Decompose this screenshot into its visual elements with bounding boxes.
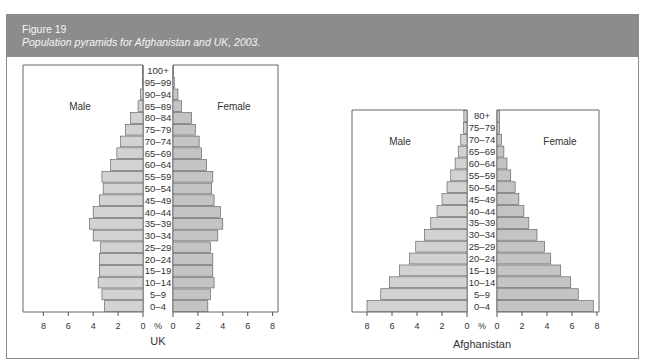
- uk-female-tick-label: 2: [195, 321, 200, 331]
- uk-age-label: 75–79: [145, 124, 171, 135]
- uk-female-tick-label: 4: [220, 321, 225, 331]
- uk-pyramid: Male Female UK % 100+95–9990–9485–8980–8…: [23, 65, 278, 347]
- uk-age-label: 15–19: [145, 265, 171, 276]
- uk-male-tick-label: 8: [41, 321, 46, 331]
- uk-female-bar: [173, 148, 202, 159]
- uk-female-bar: [173, 101, 182, 112]
- afghanistan-male-tick-label: 8: [364, 321, 369, 331]
- afghanistan-age-label: 30–34: [469, 229, 495, 240]
- uk-male-bar: [131, 113, 143, 124]
- afghanistan-age-label: 70–74: [469, 134, 495, 145]
- afghanistan-female-bar: [497, 229, 537, 240]
- afghanistan-female-bar: [497, 170, 511, 181]
- uk-male-bar: [102, 289, 143, 300]
- afghanistan-male-bar: [367, 301, 467, 312]
- uk-age-label: 35–39: [145, 218, 171, 229]
- afghanistan-male-bar: [463, 122, 467, 133]
- afghanistan-female-bar: [497, 301, 593, 312]
- uk-male-bar: [99, 195, 143, 206]
- afghanistan-age-label: 40–44: [469, 206, 495, 217]
- uk-female-bar: [173, 289, 210, 300]
- uk-percent-label: %: [154, 321, 162, 331]
- uk-male-bar: [117, 148, 143, 159]
- uk-female-tick-label: 0: [170, 321, 175, 331]
- afghanistan-age-label: 65–69: [469, 146, 495, 157]
- afghanistan-female-bar: [497, 277, 571, 288]
- uk-age-label: 0–4: [150, 301, 166, 312]
- uk-male-bar: [98, 277, 143, 288]
- afghanistan-female-bar: [497, 122, 500, 133]
- afghanistan-male-bar: [416, 241, 467, 252]
- afghanistan-male-bar: [425, 229, 468, 240]
- afghanistan-male-bar: [455, 158, 467, 169]
- afghanistan-pyramid: Male Female Afghanistan % 80+75–7970–746…: [352, 110, 600, 350]
- uk-female-bar: [173, 113, 192, 124]
- uk-title: UK: [150, 335, 166, 347]
- afghanistan-age-label: 0–4: [474, 301, 490, 312]
- uk-age-label: 95–99: [145, 77, 171, 88]
- afghanistan-female-bar: [497, 158, 507, 169]
- afghanistan-female-bar: [497, 134, 501, 145]
- uk-age-label: 90–94: [145, 89, 171, 100]
- uk-age-label: 65–69: [145, 148, 171, 159]
- afghanistan-title: Afghanistan: [453, 338, 511, 350]
- uk-female-bar: [173, 218, 223, 229]
- afghanistan-male-bar: [381, 289, 467, 300]
- afghanistan-male-bar: [464, 111, 467, 122]
- uk-age-label: 5–9: [150, 289, 166, 300]
- afghanistan-age-label: 10–14: [469, 277, 495, 288]
- uk-male-bar: [111, 160, 143, 171]
- uk-female-bar: [173, 242, 210, 253]
- afghanistan-age-label: 5–9: [474, 289, 490, 300]
- uk-female-bar: [173, 195, 214, 206]
- pyramid-charts: Male Female UK % 100+95–9990–9485–8980–8…: [0, 0, 645, 364]
- afghanistan-female-bar: [497, 194, 519, 205]
- afghanistan-female-bar: [497, 111, 500, 122]
- uk-female-bar: [173, 207, 220, 218]
- uk-age-label: 20–24: [145, 254, 171, 265]
- afghanistan-female-tick-label: 0: [494, 321, 499, 331]
- uk-age-label: 10–14: [145, 277, 171, 288]
- afghanistan-female-bar: [497, 206, 524, 217]
- afghanistan-female-bar: [497, 289, 578, 300]
- uk-male-bar: [102, 171, 143, 182]
- uk-female-bar: [173, 77, 174, 88]
- uk-male-bar: [104, 301, 143, 312]
- uk-age-label: 50–54: [145, 183, 171, 194]
- uk-female-bar: [173, 265, 213, 276]
- afghanistan-female-tick-label: 4: [544, 321, 549, 331]
- uk-female-bar: [173, 183, 212, 194]
- afghanistan-male-bar: [410, 253, 468, 264]
- uk-age-label: 100+: [147, 65, 169, 76]
- uk-female-bar: [173, 171, 213, 182]
- uk-female-bar: [173, 89, 178, 100]
- uk-male-tick-label: 0: [140, 321, 145, 331]
- afghanistan-female-tick-label: 2: [519, 321, 524, 331]
- afghanistan-female-label: Female: [543, 136, 577, 147]
- uk-female-bar: [173, 230, 218, 241]
- afghanistan-age-label: 15–19: [469, 265, 495, 276]
- uk-female-tick-label: 6: [245, 321, 250, 331]
- uk-male-tick-label: 6: [66, 321, 71, 331]
- afghanistan-female-bar: [497, 253, 551, 264]
- afghanistan-percent-label: %: [478, 321, 486, 331]
- uk-male-bar: [126, 124, 143, 135]
- afghanistan-male-bar: [458, 146, 467, 157]
- afghanistan-age-label: 35–39: [469, 217, 495, 228]
- uk-male-bar: [121, 136, 143, 147]
- afghanistan-male-bar: [400, 265, 468, 276]
- afghanistan-female-tick-label: 8: [594, 321, 599, 331]
- afghanistan-age-label: 50–54: [469, 182, 495, 193]
- afghanistan-male-bar: [390, 277, 468, 288]
- uk-male-bar: [93, 230, 143, 241]
- afghanistan-age-label: 75–79: [469, 122, 495, 133]
- uk-male-tick-label: 2: [116, 321, 121, 331]
- uk-male-bar: [138, 101, 143, 112]
- uk-male-label: Male: [69, 101, 91, 112]
- uk-male-bar: [141, 89, 143, 100]
- uk-female-bar: [173, 136, 199, 147]
- uk-male-bar: [99, 254, 143, 265]
- afghanistan-male-bar: [447, 182, 467, 193]
- uk-age-label: 85–89: [145, 101, 171, 112]
- afghanistan-male-tick-label: 6: [389, 321, 394, 331]
